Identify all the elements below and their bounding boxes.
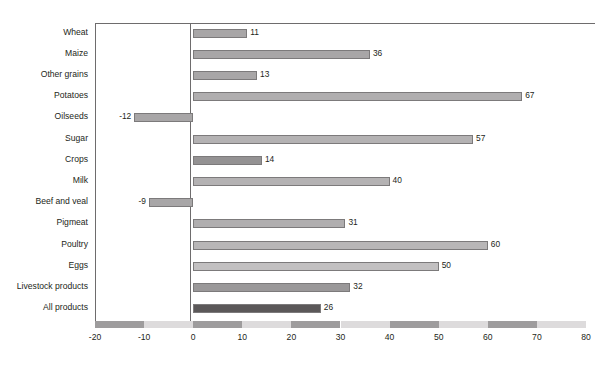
bar-row: Potatoes67 (0, 87, 615, 108)
bar-row: Milk40 (0, 172, 615, 193)
bar-value-label: 31 (348, 217, 357, 228)
axis-strip-segment (488, 321, 537, 328)
axis-strip-segment (95, 321, 144, 328)
bar-row: All products26 (0, 299, 615, 320)
bar-value-label: 26 (324, 302, 333, 313)
bar-row: Wheat11 (0, 24, 615, 45)
bar (193, 177, 389, 186)
x-axis-tick-labels: -20-1001020304050607080 (0, 331, 615, 345)
x-axis-strip (95, 321, 586, 328)
bar-row: Beef and veal-9 (0, 193, 615, 214)
category-label-beef-and-veal: Beef and veal (0, 196, 88, 207)
category-label-potatoes: Potatoes (0, 90, 88, 101)
category-label-poultry: Poultry (0, 239, 88, 250)
bar (193, 92, 522, 101)
bar-value-label: -12 (114, 111, 131, 122)
bar-row: Poultry60 (0, 236, 615, 257)
bar-value-label: 50 (442, 260, 451, 271)
bar-value-label: 60 (491, 239, 500, 250)
x-tick-label: 20 (271, 331, 311, 343)
x-tick-label: 50 (419, 331, 459, 343)
bar-row: Livestock products32 (0, 278, 615, 299)
bar-value-label: 57 (476, 133, 485, 144)
axis-strip-segment (242, 321, 291, 328)
bar-rows: Wheat11Maize36Other grains13Potatoes67Oi… (0, 23, 615, 321)
category-label-crops: Crops (0, 154, 88, 165)
bar-value-label: -9 (129, 196, 146, 207)
bar (193, 135, 473, 144)
x-tick-label: 70 (517, 331, 557, 343)
bar (193, 262, 439, 271)
bar (193, 241, 488, 250)
bar-value-label: 40 (393, 175, 402, 186)
category-label-livestock-products: Livestock products (0, 281, 88, 292)
bar-value-label: 13 (260, 69, 269, 80)
x-tick-label: -20 (75, 331, 115, 343)
x-tick-label: 40 (370, 331, 410, 343)
bar-row: Pigmeat31 (0, 214, 615, 235)
x-tick-label: 0 (173, 331, 213, 343)
bar-row: Crops14 (0, 151, 615, 172)
category-label-maize: Maize (0, 48, 88, 59)
category-label-wheat: Wheat (0, 27, 88, 38)
bar (149, 198, 193, 207)
bar-chart: Wheat11Maize36Other grains13Potatoes67Oi… (0, 0, 615, 366)
category-label-eggs: Eggs (0, 260, 88, 271)
bar-row: Maize36 (0, 45, 615, 66)
bar-value-label: 11 (250, 27, 259, 38)
category-label-all-products: All products (0, 302, 88, 313)
bar-row: Other grains13 (0, 66, 615, 87)
axis-strip-segment (144, 321, 193, 328)
category-label-oilseeds: Oilseeds (0, 111, 88, 122)
bar-value-label: 14 (265, 154, 274, 165)
bar-row: Sugar57 (0, 130, 615, 151)
axis-strip-segment (439, 321, 488, 328)
x-tick-label: 10 (222, 331, 262, 343)
axis-strip-segment (537, 321, 586, 328)
category-label-sugar: Sugar (0, 133, 88, 144)
axis-strip-segment (341, 321, 390, 328)
bar (193, 156, 262, 165)
x-tick-label: -10 (124, 331, 164, 343)
bar (193, 304, 321, 313)
axis-strip-segment (390, 321, 439, 328)
category-label-other-grains: Other grains (0, 69, 88, 80)
bar (193, 283, 350, 292)
category-label-pigmeat: Pigmeat (0, 217, 88, 228)
category-label-milk: Milk (0, 175, 88, 186)
bar (193, 29, 247, 38)
axis-strip-segment (291, 321, 340, 328)
bar (134, 113, 193, 122)
x-tick-label: 80 (566, 331, 606, 343)
x-tick-label: 30 (321, 331, 361, 343)
bar-value-label: 67 (525, 90, 534, 101)
bar-row: Oilseeds-12 (0, 108, 615, 129)
bar (193, 71, 257, 80)
bar-value-label: 32 (353, 281, 362, 292)
x-tick-label: 60 (468, 331, 508, 343)
bar-value-label: 36 (373, 48, 382, 59)
axis-strip-segment (193, 321, 242, 328)
bar-row: Eggs50 (0, 257, 615, 278)
bar (193, 50, 370, 59)
bar (193, 219, 345, 228)
